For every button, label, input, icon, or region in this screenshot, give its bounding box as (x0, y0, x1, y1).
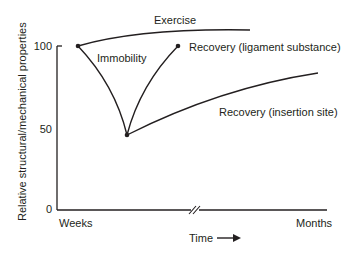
y-tick-label-0: 0 (32, 204, 52, 215)
x-label-months: Months (296, 218, 332, 229)
immobility-label: Immobility (97, 53, 147, 64)
y-axis-title: Relative structural/mechanical propertie… (17, 22, 28, 221)
recovery-insertion-label: Recovery (insertion site) (219, 107, 338, 118)
exercise-label: Exercise (154, 15, 196, 26)
y-tick-label-50: 50 (32, 124, 52, 135)
recovery-insertion-curve (127, 73, 318, 135)
time-arrowhead-icon (233, 234, 241, 242)
x-label-weeks: Weeks (59, 218, 92, 229)
x-axis-title: Time (189, 233, 213, 244)
y-tick-label-100: 100 (32, 41, 52, 52)
recovery-ligament-label: Recovery (ligament substance) (189, 42, 341, 53)
start-point (76, 44, 81, 49)
recovery-ligament-point (176, 44, 181, 49)
low-point (125, 133, 130, 138)
